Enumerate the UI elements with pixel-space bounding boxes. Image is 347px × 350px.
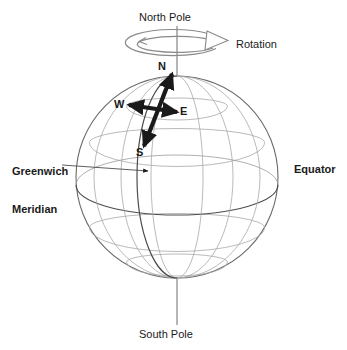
label-greenwich-meridian: Greenwich Meridian [12,140,68,241]
diagram-canvas: North Pole Rotation South Pole Equator G… [0,0,347,350]
label-rotation: Rotation [236,38,277,51]
label-compass-west: W [114,98,124,111]
label-greenwich-line1: Greenwich [12,165,68,178]
label-north-pole: North Pole [139,11,191,24]
label-south-pole: South Pole [139,328,193,341]
globe-outline [76,76,278,278]
label-greenwich-line2: Meridian [12,203,68,216]
label-equator: Equator [294,163,336,176]
rotation-arrowhead-right [205,31,228,50]
label-compass-south: S [136,146,143,159]
rotation-ring-inner [137,36,213,52]
label-compass-east: E [180,105,187,118]
rotation-arrowhead-left [139,38,147,45]
label-compass-north: N [158,60,166,73]
